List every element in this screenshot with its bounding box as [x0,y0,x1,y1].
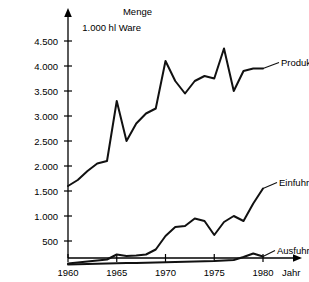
x-axis-title: Jahr [282,267,300,278]
chart-container: Menge 1.000 hl Ware Jahr 5001.0001.5002.… [0,0,309,282]
y-axis-arrow-icon [64,8,72,17]
series-line-einfuhr [68,189,263,264]
x-axis: 19601965197019751980 [57,254,302,278]
x-axis-tick-label: 1980 [252,267,273,278]
series-label-ausfuhr: Ausfuhr [277,245,309,256]
y-axis-tick-labels: 5001.0001.5002.0002.5003.0003.5004.0004.… [34,36,58,247]
produktion-leader-line [263,63,279,69]
y-axis-unit-label: 1.000 hl Ware [82,22,141,33]
x-axis-tick-label: 1975 [204,267,225,278]
x-axis-tick-label: 1970 [155,267,176,278]
series-line-produktion [68,49,263,187]
ausfuhr-leader-line [263,251,275,257]
y-axis-tick-label: 3.000 [34,111,58,122]
y-axis-tick-label: 3.500 [34,86,58,97]
y-axis-tick-label: 2.000 [34,161,58,172]
einfuhr-leader-line [263,183,277,189]
x-axis-tick-labels: 19601965197019751980 [57,267,273,278]
y-axis-tick-label: 2.500 [34,136,58,147]
y-axis-tick-label: 1.500 [34,186,58,197]
series-label-produktion: Produktion [281,57,309,68]
line-chart: Menge 1.000 hl Ware Jahr 5001.0001.5002.… [0,0,309,282]
y-axis-title: Menge [123,6,152,17]
y-axis: 5001.0001.5002.0002.5003.0003.5004.0004.… [34,8,72,258]
x-axis-tick-label: 1965 [106,267,127,278]
y-axis-tick-label: 1.000 [34,211,58,222]
x-axis-tick-label: 1960 [57,267,78,278]
y-axis-tick-label: 4.500 [34,36,58,47]
series-label-einfuhr: Einfuhr [279,177,309,188]
y-axis-tick-label: 500 [42,236,58,247]
y-axis-tick-label: 4.000 [34,61,58,72]
